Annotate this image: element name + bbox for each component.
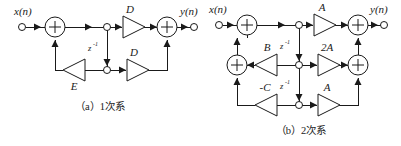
arrow-into-adder-out-top <box>341 22 348 29</box>
label-gain-a-bottom: A <box>323 81 331 93</box>
terminal-input <box>19 24 26 31</box>
label-delay-z-exponent: -1 <box>93 41 98 47</box>
label-input-xn: x(n) <box>13 5 32 18</box>
label-gain-2a-mid: 2A <box>321 41 334 53</box>
label-gain-d-bottom: D <box>129 46 138 58</box>
gain-triangle-a-bottom <box>318 94 340 116</box>
terminal-output <box>191 24 198 31</box>
diagram-panel-a: x(n) y(n) D D E z -1 <box>0 0 201 146</box>
label-delay-z: z -1 <box>87 41 98 53</box>
gain-triangle-d-top <box>123 16 145 38</box>
gain-triangle-e <box>63 59 85 81</box>
branch-node-3 <box>296 102 303 109</box>
arrow-delay-1-down <box>296 54 303 61</box>
arrow-input-b <box>227 22 234 29</box>
arrow-delay-down <box>104 59 111 66</box>
arrow-gain-c-up-into-adder-mid <box>234 78 241 85</box>
arrow-into-adder-out-mid <box>341 62 348 69</box>
arrow-input <box>34 24 41 31</box>
label-delay-z-1-exponent: -1 <box>285 39 290 45</box>
adder-input <box>45 17 65 37</box>
terminal-output-b <box>381 22 388 29</box>
branch-node-1 <box>296 22 303 29</box>
arrow-into-gain-a-top <box>306 22 313 29</box>
label-delay-z-2-base: z <box>279 81 284 91</box>
arrow-feedback-into-adder <box>52 40 59 47</box>
caption-panel-a: （a）1次系 <box>0 98 200 113</box>
arrow-gain-b-into-adder-mid <box>247 62 254 69</box>
arrow-into-adder-out <box>150 24 157 31</box>
arrow-into-gain-top <box>115 24 122 31</box>
label-delay-z-1: z -1 <box>279 39 290 51</box>
branch-node-top <box>104 24 111 31</box>
label-delay-z-1-base: z <box>279 41 284 51</box>
branch-node-bottom <box>104 67 111 74</box>
arrow-into-gain-2a <box>310 62 317 69</box>
label-delay-z-2-exponent: -1 <box>285 79 290 85</box>
label-gain-minus-c: -C <box>260 81 272 93</box>
adder-input-top <box>237 15 257 35</box>
label-gain-e: E <box>70 80 78 92</box>
label-output-yn: y(n) <box>179 5 198 18</box>
arrow-midline <box>85 24 92 31</box>
arrow-into-gain-d-bottom <box>119 67 126 74</box>
arrow-delay-2-down <box>296 94 303 101</box>
label-input-xn-b: x(n) <box>208 3 227 16</box>
adder-input-mid <box>227 55 247 75</box>
wire-gain-c-to-adder-mid <box>237 78 255 105</box>
label-delay-z-2: z -1 <box>279 79 290 91</box>
arrow-into-gain-a-bottom <box>310 102 317 109</box>
arrow-to-output-b <box>371 22 378 29</box>
gain-triangle-b <box>255 54 277 76</box>
label-delay-z-base: z <box>87 43 92 53</box>
arrow-to-output <box>181 24 188 31</box>
branch-node-2 <box>296 62 303 69</box>
caption-panel-b: （b）2次系 <box>201 122 401 137</box>
adder-output-mid <box>348 55 368 75</box>
gain-triangle-minus-c <box>255 94 277 116</box>
gain-triangle-d-bottom <box>127 59 149 81</box>
arrow-gain-d-up-into-adder-out <box>164 40 171 47</box>
adder-output <box>157 17 177 37</box>
label-gain-a-top: A <box>318 1 326 13</box>
wire-gain-a-bottom-to-adder-out-mid <box>339 78 358 105</box>
wire-gain-d-to-adder-out <box>148 40 167 70</box>
gain-triangle-2a-mid <box>318 54 340 76</box>
arrow-adder-mid-up <box>234 38 241 45</box>
label-gain-d-top: D <box>125 3 134 15</box>
label-gain-b: B <box>264 41 271 53</box>
terminal-input-b <box>216 22 223 29</box>
gain-triangle-a-top <box>314 14 336 36</box>
adder-output-top <box>348 15 368 35</box>
arrow-midline-b <box>278 22 285 29</box>
label-output-yn-b: y(n) <box>369 3 388 16</box>
figure-signal-flow-diagrams: x(n) y(n) D D E z -1 <box>0 0 401 146</box>
arrow-gain-a-bottom-up-into-adder-out-mid <box>355 78 362 85</box>
arrow-adder-out-mid-up <box>355 38 362 45</box>
